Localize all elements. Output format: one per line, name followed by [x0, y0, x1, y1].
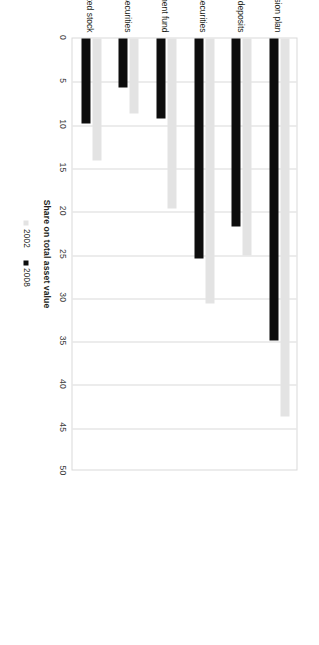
axis-tick-label: 30 [57, 283, 67, 311]
axis-tick-label: 10 [57, 110, 67, 138]
value-axis-title: Share on total asset value [41, 37, 51, 470]
bar-2002[interactable] [280, 38, 289, 416]
bar-2008[interactable] [194, 38, 203, 258]
chart-canvas: Pension planCurrent accounts and bank de… [0, 0, 319, 645]
bar-2002[interactable] [205, 38, 214, 303]
chart-screenshot: Pension planCurrent accounts and bank de… [0, 0, 319, 645]
bars-layer: Pension planCurrent accounts and bank de… [72, 38, 296, 469]
legend-label-2002: 2002 [21, 228, 30, 247]
axis-tick-label: 5 [57, 66, 67, 94]
chart-legend: 2002 2008 [21, 37, 30, 470]
bar-group: Other securities [108, 38, 146, 471]
axis-tick-label: 45 [57, 413, 67, 441]
bar-group: Pension plan [258, 38, 296, 471]
bar-2008[interactable] [156, 38, 165, 118]
bar-group: Fixed income securities [183, 38, 221, 471]
bar-2002[interactable] [167, 38, 176, 208]
bar-2002[interactable] [242, 38, 251, 255]
category-label: Pension plan [273, 0, 282, 38]
bar-group: Quoted stock [70, 38, 108, 471]
axis-tick-label: 0 [57, 23, 67, 51]
bar-2002[interactable] [92, 38, 101, 160]
legend-swatch-2002 [23, 220, 28, 225]
axis-tick-label: 20 [57, 196, 67, 224]
plot-area: Pension planCurrent accounts and bank de… [71, 37, 297, 470]
legend-item-2002[interactable]: 2002 [21, 220, 30, 247]
category-label: Other securities [122, 0, 131, 38]
bar-group: Investment fund [145, 38, 183, 471]
bar-2002[interactable] [129, 38, 138, 113]
category-label: Fixed income securities [197, 0, 206, 38]
rotated-chart-container: Pension planCurrent accounts and bank de… [0, 0, 319, 645]
bar-group: Current accounts and bank deposits [221, 38, 259, 471]
axis-tick-label: 35 [57, 326, 67, 354]
axis-tick-label: 25 [57, 240, 67, 268]
bar-2008[interactable] [269, 38, 278, 340]
category-label: Investment fund [160, 0, 169, 38]
axis-tick-label: 15 [57, 153, 67, 181]
bar-2008[interactable] [81, 38, 90, 123]
legend-item-2008[interactable]: 2008 [21, 260, 30, 287]
axis-tick-label: 40 [57, 369, 67, 397]
category-label: Current accounts and bank deposits [235, 0, 244, 38]
bar-2008[interactable] [231, 38, 240, 226]
legend-label-2008: 2008 [21, 268, 30, 287]
axis-tick-label: 50 [57, 456, 67, 484]
category-label: Quoted stock [84, 0, 93, 38]
bar-2008[interactable] [118, 38, 127, 87]
legend-swatch-2008 [23, 260, 28, 265]
